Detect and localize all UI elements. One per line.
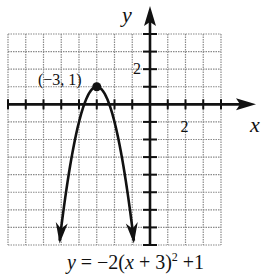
- x-tick-label: 2: [181, 118, 189, 135]
- vertex-label: (−3, 1): [38, 71, 82, 89]
- caption-part: + 3): [134, 251, 172, 273]
- caption-y: y: [67, 251, 76, 273]
- equation-caption: y = −2(x + 3)2 +1: [0, 250, 271, 274]
- caption-part: +1: [178, 251, 204, 273]
- grid: [8, 34, 221, 245]
- x-axis-label: x: [249, 112, 260, 137]
- vertex-point: [92, 82, 101, 91]
- caption-x: x: [125, 251, 134, 273]
- caption-part: = −2(: [76, 251, 125, 273]
- y-tick-label: 2: [133, 60, 141, 77]
- y-axis-label: y: [120, 2, 132, 27]
- parabola-graph: (−3, 1) 2 2 x y: [0, 0, 271, 250]
